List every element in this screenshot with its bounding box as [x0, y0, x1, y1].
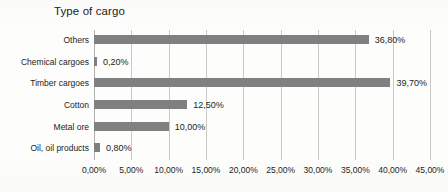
bar[interactable]: [94, 122, 169, 131]
bar[interactable]: [94, 78, 390, 87]
bar[interactable]: [94, 57, 97, 66]
x-tick-label: 25,00%: [266, 163, 295, 177]
bar-row[interactable]: 36,80%: [94, 30, 430, 52]
category-label: Others: [0, 30, 89, 52]
x-tick-label: 15,00%: [192, 163, 221, 177]
bar-row[interactable]: 39,70%: [94, 73, 430, 95]
bar-row[interactable]: 12,50%: [94, 95, 430, 117]
x-tick-label: 35,00%: [341, 163, 370, 177]
x-tick-label: 0,00%: [82, 163, 106, 177]
bar-row[interactable]: 0,20%: [94, 52, 430, 74]
bar-series: 36,80%0,20%39,70%12,50%10,00%0,80%: [94, 30, 430, 160]
bar[interactable]: [94, 35, 369, 44]
x-tick-label: 30,00%: [304, 163, 333, 177]
category-label: Oil, oil products: [0, 138, 89, 160]
bar-chart: Type of cargo OthersChemical cargoesTimb…: [0, 0, 448, 192]
x-tick-label: 20,00%: [229, 163, 258, 177]
x-tick-label: 45,00%: [416, 163, 445, 177]
category-axis-labels: OthersChemical cargoesTimber cargoesCott…: [0, 30, 89, 160]
bar[interactable]: [94, 143, 100, 152]
bar-value-label: 10,00%: [175, 117, 206, 137]
bar-value-label: 39,70%: [396, 73, 427, 93]
x-axis-tick-labels: 0,00%5,00%10,00%15,00%20,00%25,00%30,00%…: [94, 163, 430, 179]
category-label: Chemical cargoes: [0, 52, 89, 74]
category-label: Cotton: [0, 95, 89, 117]
x-tick-label: 40,00%: [378, 163, 407, 177]
bar-value-label: 12,50%: [193, 95, 224, 115]
category-label: Metal ore: [0, 117, 89, 139]
x-tick-label: 10,00%: [154, 163, 183, 177]
x-tick-label: 5,00%: [119, 163, 143, 177]
chart-title: Type of cargo: [54, 4, 125, 18]
plot-area: 36,80%0,20%39,70%12,50%10,00%0,80%: [94, 30, 430, 160]
bar-value-label: 0,80%: [106, 138, 132, 158]
bar-value-label: 0,20%: [103, 52, 129, 72]
bar[interactable]: [94, 100, 187, 109]
category-label: Timber cargoes: [0, 73, 89, 95]
bar-row[interactable]: 0,80%: [94, 138, 430, 160]
bar-row[interactable]: 10,00%: [94, 117, 430, 139]
bar-value-label: 36,80%: [375, 30, 406, 50]
gridline: [430, 30, 431, 160]
